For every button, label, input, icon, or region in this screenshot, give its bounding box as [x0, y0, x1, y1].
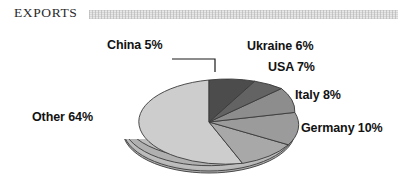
slice-label-usa: USA 7% [268, 60, 315, 74]
slice-label-ukraine: Ukraine 6% [247, 39, 313, 53]
pie-chart-svg [0, 26, 413, 190]
slice-label-germany: Germany 10% [301, 121, 383, 135]
slice-label-italy: Italy 8% [295, 88, 341, 102]
pie-slices-top-face [139, 79, 299, 164]
pie-chart-area [0, 26, 413, 190]
exports-pie-chart-figure: EXPORTS [0, 0, 413, 190]
page-title: EXPORTS [14, 5, 77, 21]
slice-label-other: Other 64% [32, 110, 93, 124]
slice-label-china: China 5% [107, 38, 162, 52]
decorative-hatched-band [89, 10, 398, 19]
